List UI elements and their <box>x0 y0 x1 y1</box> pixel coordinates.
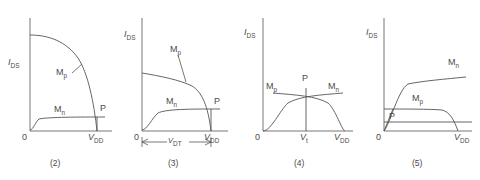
panel-3-y-label: IDS <box>124 30 135 41</box>
panel-3-x-tick-vdd: VDD <box>204 133 219 144</box>
panel-4-x-tick-0: 0 <box>255 133 260 142</box>
panel-2: IDS 0 VDD Mp Mn P (2) <box>0 0 120 180</box>
panel-4-y-label: IDS <box>244 28 255 39</box>
panel-3-plot <box>120 0 238 180</box>
panel-5-plot <box>360 0 480 180</box>
curve-mp <box>263 93 343 131</box>
panel-4-caption: (4) <box>294 158 304 168</box>
panel-2-plot <box>0 0 120 180</box>
panel-3-caption: (3) <box>168 158 178 168</box>
panel-4-x-tick-vt: Vt <box>300 133 308 144</box>
panel-2-caption: (2) <box>50 158 60 168</box>
panel-5-x-tick-vdd: VDD <box>454 133 469 144</box>
panel-5-x-tick-0: 0 <box>376 133 381 142</box>
panel-3-label-p: P <box>214 97 220 106</box>
panel-3-dimension-label: VDT <box>168 137 182 147</box>
panel-4-x-tick-vdd: VDD <box>334 133 349 144</box>
curve-mn <box>384 77 466 131</box>
panel-4-plot <box>238 0 360 180</box>
panel-5: IDS 0 VDD Mn Mp P (5) <box>360 0 480 180</box>
curve-mn <box>30 117 105 130</box>
panel-3: IDS 0 VDD Mp Mn P VDT (3) <box>120 0 238 180</box>
curve-mn <box>273 93 345 131</box>
panel-5-y-label: IDS <box>366 28 377 39</box>
panel-2-label-mp: Mp <box>56 68 67 79</box>
panel-4-label-mn: Mn <box>328 82 339 93</box>
panel-2-label-p: P <box>100 104 106 113</box>
leader-mp <box>178 55 186 82</box>
panel-5-caption: (5) <box>412 158 422 168</box>
leader-mp <box>72 64 82 73</box>
panel-2-y-label: IDS <box>8 58 19 69</box>
panel-5-label-mn: Mn <box>448 58 459 69</box>
panel-5-label-p: P <box>389 112 395 121</box>
panel-2-x-tick-0: 0 <box>22 133 27 142</box>
panel-4-label-p: P <box>302 74 308 83</box>
panel-3-x-tick-0: 0 <box>134 133 139 142</box>
curve-mn <box>142 109 220 130</box>
panel-4: IDS 0 Vt VDD Mp Mn P (4) <box>238 0 360 180</box>
panel-2-x-tick-vdd: VDD <box>88 133 103 144</box>
panel-2-label-mn: Mn <box>54 105 65 116</box>
panel-3-label-mn: Mn <box>166 97 177 108</box>
curve-mp <box>30 35 97 131</box>
curve-mp <box>384 109 458 131</box>
panel-4-label-mp: Mp <box>266 82 277 93</box>
panel-5-label-mp: Mp <box>412 94 423 105</box>
figure-cmos-iv-characteristics: IDS 0 VDD Mp Mn P (2) IDS 0 <box>0 0 480 180</box>
panel-3-label-mp: Mp <box>170 45 181 56</box>
